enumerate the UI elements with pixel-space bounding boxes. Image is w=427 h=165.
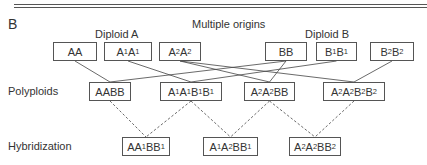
polyploid-box-a2a2b2b2: A2A2B2B2 (323, 82, 385, 101)
diploid-box-aa: AA (53, 42, 97, 61)
edge-a2a2bb-to-a2a2bb2 (270, 101, 316, 137)
hybrid-box-a2a2bb2: A2A2BB2 (289, 137, 341, 156)
edge-b2b2-to-a2a2b2b2 (354, 61, 392, 82)
polyploid-box-aabb: AABB (89, 82, 131, 101)
edge-a2a2-to-a2a2b2b2 (180, 61, 354, 82)
edge-aa-to-aabb (75, 61, 110, 82)
edge-a2a2-to-a2a2bb (180, 61, 270, 82)
polyploid-box-a1a1b1b1: A1A1B1B1 (160, 82, 222, 101)
polyploid-box-a2a2bb: A2A2BB (244, 82, 295, 101)
edge-a1a1b1b1-to-aa1bb1 (146, 101, 191, 137)
edge-a2a2b2b2-to-a2a2bb2 (315, 101, 354, 137)
diploid-box-bb: BB (265, 42, 307, 61)
dashed-edges (110, 101, 354, 137)
diploid-box-a1a1: A1A1 (104, 42, 152, 61)
hybrid-box-a1a2bb1: A1A2BB1 (203, 137, 258, 156)
diploid-box-b1b1: B1B1 (316, 42, 357, 61)
solid-edges (75, 61, 392, 82)
edge-b1b1-to-a1a1b1b1 (191, 61, 337, 82)
diploid-box-b2b2: B2B2 (370, 42, 414, 61)
edge-bb-to-a2a2bb (270, 61, 287, 82)
diploid-box-a2a2: A2A2 (159, 42, 201, 61)
edge-aabb-to-aa1bb1 (110, 101, 146, 137)
hybrid-box-aa1bb1: AA1BB1 (122, 137, 170, 156)
edge-a1a1b1b1-to-a1a2bb1 (191, 101, 231, 137)
edge-a2a2bb-to-a1a2bb1 (231, 101, 270, 137)
